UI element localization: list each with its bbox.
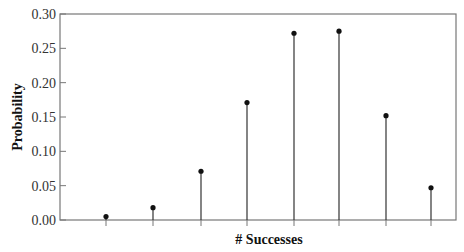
x-axis-title: # Successes — [235, 232, 303, 247]
y-tick-label: 0.00 — [32, 213, 57, 228]
plot-border — [60, 14, 456, 220]
x-axis — [106, 220, 431, 226]
stem-marker — [150, 205, 155, 210]
y-axis-title: Probability — [10, 83, 25, 150]
stem-chart: 0.000.050.100.150.200.250.30 # Successes… — [0, 0, 464, 252]
stem-marker — [244, 100, 249, 105]
stem-marker — [428, 185, 433, 190]
stem-marker — [383, 113, 388, 118]
y-tick-label: 0.25 — [32, 41, 57, 56]
y-tick-label: 0.30 — [32, 7, 57, 22]
stem-marker — [336, 29, 341, 34]
data-series — [103, 29, 433, 220]
y-tick-label: 0.20 — [32, 76, 57, 91]
y-tick-label: 0.05 — [32, 179, 57, 194]
plot-frame — [60, 14, 456, 220]
y-tick-label: 0.15 — [32, 110, 57, 125]
stem-marker — [198, 169, 203, 174]
y-tick-label: 0.10 — [32, 144, 57, 159]
stem-marker — [291, 31, 296, 36]
y-axis: 0.000.050.100.150.200.250.30 — [32, 7, 67, 228]
stem-marker — [103, 214, 108, 219]
